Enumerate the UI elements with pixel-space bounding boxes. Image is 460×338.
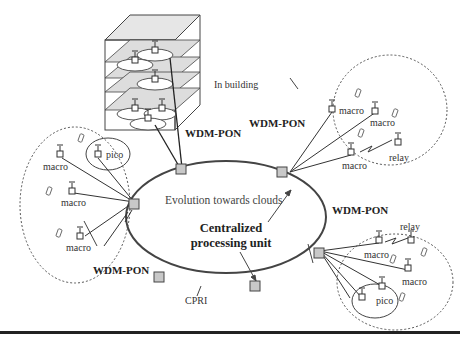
left-macro-label-3: macro bbox=[66, 243, 91, 253]
br-pico-label: pico bbox=[376, 296, 393, 306]
left-macro-label-2: macro bbox=[61, 198, 86, 208]
tr-macro-label-2: macro bbox=[370, 118, 395, 128]
ring-node-left bbox=[129, 199, 139, 209]
wdm-pon-label-top-right: WDM-PON bbox=[249, 118, 305, 129]
ring-node-top-right bbox=[277, 167, 287, 177]
ring-node-bottom-left bbox=[154, 272, 164, 282]
tr-macro-label-3: macro bbox=[342, 161, 367, 171]
centralized-line2: processing unit bbox=[186, 237, 276, 250]
ring-node-bottom bbox=[250, 281, 260, 291]
left-macro-label-1: macro bbox=[43, 162, 68, 172]
in-building-label: In building bbox=[214, 80, 258, 90]
wdm-pon-label-top: WDM-PON bbox=[185, 128, 241, 139]
ring bbox=[126, 161, 326, 273]
bottom-right-cluster-boundary bbox=[337, 234, 453, 330]
wdm-pon-label-left: WDM-PON bbox=[93, 265, 149, 276]
diagram-canvas bbox=[0, 0, 460, 338]
tr-relay-label: relay bbox=[389, 153, 409, 163]
bottom-rule bbox=[0, 331, 460, 334]
centralized-label: Centralized processing unit bbox=[186, 222, 276, 249]
evolution-label: Evolution towards clouds bbox=[165, 195, 283, 207]
left-pico-label: pico bbox=[106, 150, 123, 160]
building bbox=[105, 15, 200, 168]
br-relay-label: relay bbox=[400, 222, 420, 232]
ring-node-right bbox=[314, 248, 324, 258]
cpri-label: CPRI bbox=[185, 296, 207, 306]
wdm-pon-label-right: WDM-PON bbox=[332, 205, 388, 216]
br-macro-label-2: macro bbox=[402, 277, 427, 287]
tr-macro-label-1: macro bbox=[339, 106, 364, 116]
br-macro-label-1: macro bbox=[364, 250, 389, 260]
ring-node-top bbox=[176, 164, 186, 174]
centralized-line1: Centralized bbox=[186, 222, 276, 235]
